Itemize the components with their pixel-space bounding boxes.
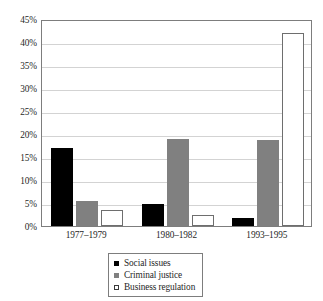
- bar: [232, 218, 254, 226]
- y-tick-label: 30%: [20, 84, 37, 94]
- x-tick-label: 1993–1995: [222, 229, 312, 241]
- bar: [76, 201, 98, 226]
- chart-legend: Social issuesCriminal justiceBusiness re…: [108, 253, 203, 297]
- legend-swatch-icon: [114, 285, 119, 290]
- legend-label: Business regulation: [124, 281, 195, 293]
- bar: [101, 210, 123, 226]
- bars-layer: [42, 21, 311, 226]
- legend-swatch-icon: [114, 261, 119, 266]
- bar: [167, 139, 189, 226]
- plot-area: 0%5%10%15%20%25%30%35%40%45% 1977–197919…: [0, 0, 323, 240]
- plot-frame: [41, 20, 312, 227]
- legend-swatch-icon: [114, 273, 119, 278]
- bar-chart: 0%5%10%15%20%25%30%35%40%45% 1977–197919…: [0, 0, 323, 301]
- bar: [282, 33, 304, 226]
- y-tick-label: 5%: [25, 199, 37, 209]
- y-tick-label: 35%: [20, 61, 37, 71]
- y-tick-label: 0%: [25, 222, 37, 232]
- y-axis-tick-labels: 0%5%10%15%20%25%30%35%40%45%: [0, 0, 40, 240]
- y-tick-label: 15%: [20, 153, 37, 163]
- legend-item: Criminal justice: [114, 269, 195, 281]
- y-tick-label: 25%: [20, 107, 37, 117]
- bar: [51, 148, 73, 226]
- x-tick-label: 1977–1979: [41, 229, 131, 241]
- y-tick-label: 10%: [20, 176, 37, 186]
- x-tick-label: 1980–1982: [132, 229, 222, 241]
- y-tick-label: 40%: [20, 38, 37, 48]
- bar-group: [51, 21, 123, 226]
- y-tick-label: 20%: [20, 130, 37, 140]
- legend-item: Business regulation: [114, 281, 195, 293]
- legend-label: Social issues: [124, 257, 170, 269]
- bar-group: [142, 21, 214, 226]
- legend-label: Criminal justice: [124, 269, 182, 281]
- bar: [142, 204, 164, 226]
- y-tick-label: 45%: [20, 15, 37, 25]
- bar: [257, 140, 279, 226]
- x-axis-tick-labels: 1977–19791980–19821993–1995: [41, 229, 312, 245]
- legend-item: Social issues: [114, 257, 195, 269]
- bar: [192, 215, 214, 227]
- bar-group: [232, 21, 304, 226]
